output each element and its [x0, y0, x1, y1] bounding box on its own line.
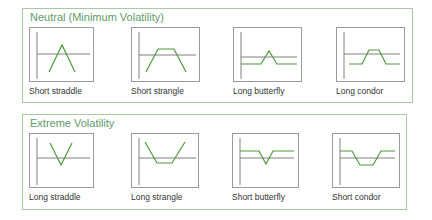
tile-label: Short butterfly	[232, 192, 285, 202]
tile-label: Long condor	[336, 86, 383, 96]
panel-neutral: Neutral (Minimum Volatility) Short strad…	[22, 8, 413, 103]
panel-title-extreme-volatility: Extreme Volatility	[30, 117, 114, 129]
short-straddle-payoff-icon	[29, 27, 94, 82]
tile-label: Long strangle	[131, 192, 183, 202]
tile-label: Long butterfly	[233, 86, 285, 96]
long-straddle-payoff-icon	[29, 133, 94, 188]
short-butterfly-payoff-icon	[232, 133, 299, 188]
long-butterfly-payoff-icon	[233, 27, 302, 82]
panel-extreme-volatility: Extreme Volatility Long straddle Long st…	[22, 114, 407, 210]
tile-label: Short condor	[332, 192, 381, 202]
tile-label: Long straddle	[29, 192, 81, 202]
short-condor-payoff-icon	[332, 133, 400, 188]
tile-label: Short straddle	[29, 86, 82, 96]
long-strangle-payoff-icon	[131, 133, 199, 188]
long-condor-payoff-icon	[336, 27, 405, 82]
panel-title-neutral: Neutral (Minimum Volatility)	[30, 11, 164, 23]
tile-label: Short strangle	[131, 86, 184, 96]
short-strangle-payoff-icon	[131, 27, 200, 82]
